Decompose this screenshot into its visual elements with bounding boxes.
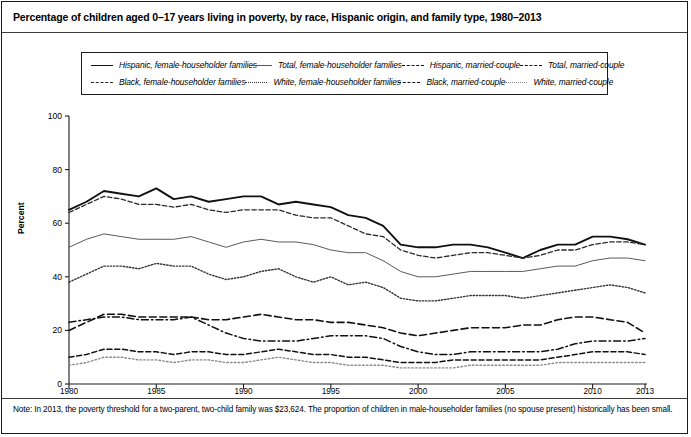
series-line: [69, 314, 645, 335]
series-line: [69, 196, 645, 258]
chart-note: Note: In 2013, the poverty threshold for…: [13, 404, 677, 416]
series-line: [69, 263, 645, 301]
series-line: [69, 317, 645, 355]
note-divider: [2, 398, 687, 399]
chart-plot-area: [2, 2, 689, 435]
series-line: [69, 188, 645, 258]
figure-panel: Percentage of children aged 0–17 years l…: [1, 1, 688, 434]
series-line: [69, 357, 645, 368]
series-line: [69, 234, 645, 277]
